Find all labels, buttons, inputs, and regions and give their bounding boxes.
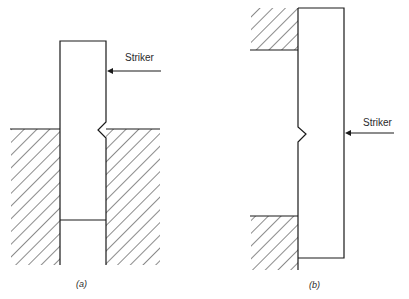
striker-label-b: Striker xyxy=(363,117,393,128)
caption-b: (b) xyxy=(309,280,320,290)
arrowhead-icon xyxy=(107,68,113,74)
clamp-block-right xyxy=(106,129,160,265)
support-block-top xyxy=(251,8,298,50)
support-block-bottom xyxy=(251,216,298,270)
panel-a: Striker (a) xyxy=(10,41,161,289)
caption-a: (a) xyxy=(76,279,87,289)
striker-label-a: Striker xyxy=(125,52,155,63)
arrowhead-icon xyxy=(345,130,351,136)
specimen-b-left-edge xyxy=(298,8,306,270)
specimen-a xyxy=(60,41,106,265)
clamp-block-left xyxy=(11,129,60,265)
panel-b: Striker (b) xyxy=(250,8,394,290)
impact-test-diagram: Striker (a) Striker (b) xyxy=(0,0,409,299)
